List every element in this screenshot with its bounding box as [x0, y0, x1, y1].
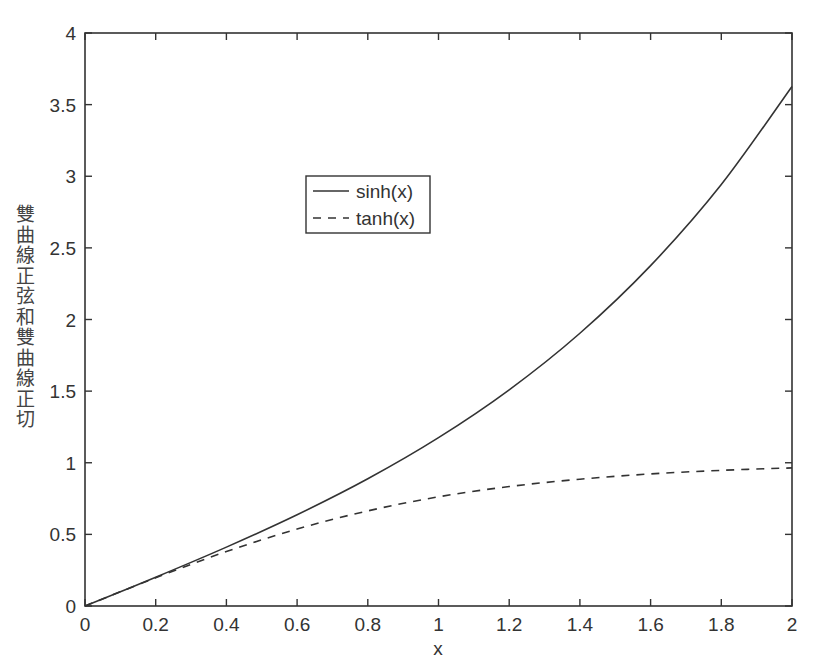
x-tick-label: 0.8 — [355, 614, 381, 635]
sinh-curve — [85, 86, 792, 606]
chart-canvas: 00.20.40.60.811.21.41.61.82 00.511.522.5… — [0, 0, 815, 667]
y-axis-ticks: 00.511.522.533.54 — [50, 23, 792, 617]
y-tick-label: 1.5 — [50, 381, 76, 402]
y-tick-label: 4 — [65, 23, 76, 44]
plot-curves — [85, 86, 792, 606]
x-tick-label: 0 — [80, 614, 91, 635]
x-axis-ticks: 00.20.40.60.811.21.41.61.82 — [80, 33, 798, 635]
x-tick-label: 0.4 — [213, 614, 240, 635]
y-tick-label: 3 — [65, 166, 76, 187]
x-axis-label: x — [433, 638, 443, 659]
tanh-curve — [85, 468, 792, 606]
x-tick-label: 1.6 — [637, 614, 663, 635]
y-tick-label: 2.5 — [50, 238, 76, 259]
x-tick-label: 1.4 — [567, 614, 594, 635]
legend: sinh(x) tanh(x) — [306, 176, 430, 233]
y-tick-label: 0 — [65, 596, 76, 617]
axes-frame — [85, 33, 792, 606]
legend-label-sinh: sinh(x) — [356, 181, 413, 202]
y-tick-label: 3.5 — [50, 95, 76, 116]
x-tick-label: 1.8 — [708, 614, 734, 635]
x-tick-label: 0.6 — [284, 614, 310, 635]
y-tick-label: 1 — [65, 453, 76, 474]
y-tick-label: 0.5 — [50, 524, 76, 545]
y-tick-label: 2 — [65, 310, 76, 331]
legend-label-tanh: tanh(x) — [356, 208, 415, 229]
y-axis-label: 雙曲線正弦和雙曲線正切 — [14, 204, 36, 430]
x-tick-label: 2 — [787, 614, 798, 635]
x-tick-label: 0.2 — [142, 614, 168, 635]
x-tick-label: 1.2 — [496, 614, 522, 635]
x-tick-label: 1 — [433, 614, 444, 635]
